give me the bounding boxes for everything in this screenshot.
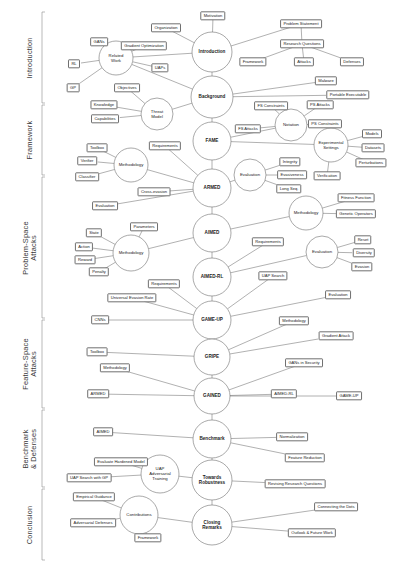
leaf-verification[interactable]: Verification	[314, 171, 341, 180]
leaf-knowledge[interactable]: Knowledge	[90, 100, 117, 109]
leaf-universal-evasion[interactable]: Universal Evasion Rate	[107, 293, 156, 302]
leaf-evasion[interactable]: Evasion	[351, 262, 372, 271]
node-evaluation-2[interactable]	[306, 236, 338, 268]
node-game-up[interactable]	[193, 301, 231, 339]
leaf-methodology-leaf-1[interactable]: Methodology	[279, 316, 309, 325]
node-gained[interactable]	[194, 378, 230, 414]
leaf-adversarial-defenses[interactable]: Adversarial Defenses	[70, 518, 116, 527]
edge-game-up-to-requirements-3	[168, 287, 196, 308]
leaf-reset[interactable]: Reset	[354, 235, 371, 244]
node-notation[interactable]	[275, 109, 307, 141]
leaf-evaluate-hardened[interactable]: Evaluate Hardened Model	[94, 457, 148, 466]
leaf-diversity[interactable]: Diversity	[353, 248, 375, 257]
leaf-fitness-function[interactable]: Fitness Function	[338, 193, 375, 202]
node-towards-rob[interactable]	[192, 460, 232, 500]
node-contributions[interactable]	[120, 496, 158, 534]
leaf-evaluation-leaf-1[interactable]: Evaluation	[92, 201, 118, 210]
leaf-ps-attacks-n[interactable]: PS Attacks	[307, 100, 334, 109]
leaf-gans[interactable]: GANs	[90, 37, 108, 46]
leaf-ps-constraints-n[interactable]: PS Constraints	[308, 119, 342, 128]
edge-methodology-1-to-classifier	[99, 169, 114, 173]
leaf-gp[interactable]: GP	[67, 83, 80, 92]
leaf-requirements-1[interactable]: Requirements	[149, 141, 181, 150]
leaf-research-questions[interactable]: Research Questions	[280, 39, 324, 48]
edge-methodology-3-to-reward	[94, 256, 114, 259]
leaf-datasets[interactable]: Datasets	[362, 143, 385, 152]
node-aimed-rl[interactable]	[193, 258, 231, 296]
leaf-verifier[interactable]: Verifier	[77, 156, 97, 165]
node-evaluation-1[interactable]	[234, 159, 266, 191]
leaf-feature-reduction[interactable]: Feature Reduction	[285, 453, 325, 462]
node-benchmark[interactable]	[193, 420, 231, 458]
node-methodology-3[interactable]	[113, 235, 149, 271]
node-methodology-1[interactable]	[114, 148, 148, 182]
edge-threat-model-to-objectives	[131, 91, 145, 103]
edge-fame-to-exp-settings	[231, 142, 314, 145]
leaf-uaps[interactable]: UAPs	[151, 63, 168, 72]
node-threat-model[interactable]	[141, 98, 173, 130]
leaf-penalty[interactable]: Penalty	[89, 267, 109, 276]
leaf-normalization[interactable]: Normalization	[276, 432, 308, 441]
leaf-objectives[interactable]: Objectives	[114, 83, 140, 92]
leaf-fs-constraints-n[interactable]: FS Constraints	[254, 101, 288, 110]
leaf-rq-attacks[interactable]: Attacks	[294, 57, 314, 66]
leaf-classifier[interactable]: Classifier	[75, 172, 99, 181]
leaf-gradient-optimization[interactable]: Gradient Optimization	[121, 41, 167, 50]
node-methodology-2[interactable]	[289, 196, 323, 230]
node-background[interactable]	[191, 76, 233, 118]
leaf-rq-framework[interactable]: Framework	[239, 57, 266, 66]
leaf-long-seq[interactable]: Long Seq.	[276, 184, 301, 193]
section-brackets	[42, 12, 45, 560]
leaf-framework-leaf[interactable]: Framework	[134, 533, 161, 542]
leaf-genetic-operators[interactable]: Genetic Operators	[336, 209, 376, 218]
leaf-portable-executable[interactable]: Portable Executable	[326, 90, 369, 99]
leaf-problem-statement[interactable]: Problem Statement	[280, 19, 322, 28]
leaf-malware[interactable]: Malware	[315, 76, 337, 85]
leaf-game-up-leaf[interactable]: GAME-UP	[336, 391, 362, 400]
leaf-perturbations[interactable]: Perturbations	[355, 158, 386, 167]
node-introduction[interactable]	[192, 32, 232, 72]
leaf-empirical-guidance[interactable]: Empirical Guidance	[73, 492, 115, 501]
leaf-gans-in-security[interactable]: GANs in Security	[285, 358, 323, 367]
leaf-evasiveness[interactable]: Evasiveness	[277, 170, 307, 179]
leaf-cnns[interactable]: CNNs	[91, 315, 109, 324]
leaf-capabilities[interactable]: Capabilities	[91, 114, 119, 123]
leaf-models[interactable]: Models	[362, 129, 382, 138]
leaf-methodology-leaf-2[interactable]: Methodology	[100, 363, 130, 372]
leaf-aimed-leaf[interactable]: AIMED	[93, 427, 113, 436]
leaf-state[interactable]: State	[86, 228, 102, 237]
leaf-cross-evasion[interactable]: Cross-evasion	[138, 187, 171, 196]
leaf-aimed-rl-leaf[interactable]: AIMED-RL	[271, 389, 297, 398]
leaf-uap-search[interactable]: UAP Search	[258, 271, 287, 280]
leaf-gradient-attack[interactable]: Gradient Attack	[319, 331, 354, 340]
leaf-parameters[interactable]: Parameters	[130, 222, 158, 231]
leaf-action[interactable]: Action	[75, 242, 93, 251]
edge-introduction-to-organization	[172, 31, 194, 42]
leaf-toolbox-1[interactable]: Toolbox	[87, 143, 108, 152]
node-aimed[interactable]	[193, 214, 231, 252]
leaf-motivation[interactable]: Motivation	[200, 11, 225, 20]
leaf-reward[interactable]: Reward	[75, 255, 96, 264]
leaf-rl[interactable]: RL	[68, 59, 80, 68]
edge-armed-to-requirements-1	[169, 149, 198, 175]
leaf-requirements-3[interactable]: Requirements	[148, 279, 180, 288]
leaf-rq-defenses[interactable]: Defenses	[340, 57, 364, 66]
node-closing[interactable]	[192, 505, 232, 545]
node-armed[interactable]	[193, 169, 231, 207]
leaf-organization[interactable]: Organization	[151, 23, 181, 32]
edge-exp-settings-to-models	[347, 136, 363, 140]
edge-gained-to-methodology-leaf-2	[126, 371, 194, 391]
leaf-revising-rq[interactable]: Revising Research Questions	[265, 479, 326, 488]
leaf-integrity[interactable]: Integrity	[279, 157, 300, 166]
leaf-toolbox-2[interactable]: Toolbox	[87, 347, 108, 356]
node-fame[interactable]	[193, 122, 231, 160]
leaf-connecting-dots[interactable]: Connecting the Dots	[314, 502, 358, 511]
leaf-uap-search-gp[interactable]: UAP Search with GP	[67, 473, 112, 482]
node-gripe[interactable]	[194, 339, 230, 375]
leaf-outlook-future[interactable]: Outlook & Future Work	[288, 528, 336, 537]
node-exp-settings[interactable]	[314, 128, 348, 162]
leaf-fs-attacks-n[interactable]: FS Attacks	[235, 124, 261, 133]
leaf-requirements-2[interactable]: Requirements	[252, 237, 284, 246]
leaf-armed-leaf[interactable]: ARMED	[87, 389, 109, 398]
leaf-evaluation-leaf-2[interactable]: Evaluation	[325, 290, 351, 299]
